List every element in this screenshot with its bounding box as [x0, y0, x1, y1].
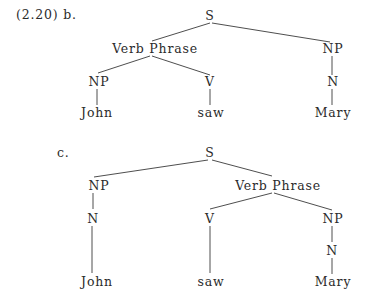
tree-c-leaf-mary: Mary	[315, 274, 352, 289]
tree-c-node-n-left: N	[87, 211, 99, 226]
tree-b-leaf-saw: saw	[198, 105, 225, 120]
edge	[94, 160, 208, 177]
tree-c-node-np-right: NP	[323, 211, 344, 226]
edge	[210, 193, 272, 209]
tree-b-node-verb-phrase: Verb Phrase	[111, 41, 198, 56]
tree-c-node-verb-phrase: Verb Phrase	[234, 178, 321, 193]
edge	[212, 160, 272, 176]
tree-c-leaf-saw: saw	[198, 274, 225, 289]
edge	[152, 23, 210, 41]
tree-c-leaf-john: John	[79, 274, 113, 289]
tree-c: c. S NP Verb Phrase N V NP N John saw Ma…	[57, 145, 351, 289]
tree-c-node-v: V	[204, 211, 215, 226]
tree-b-node-n-right: N	[327, 74, 339, 89]
edge	[152, 56, 210, 75]
syntax-tree-figure: (2.20) b. S Verb Phrase NP NP V N John s…	[0, 0, 366, 296]
tree-b: (2.20) b. S Verb Phrase NP NP V N John s…	[16, 7, 351, 120]
tree-b-leaf-mary: Mary	[315, 105, 352, 120]
edge	[274, 193, 332, 210]
tree-b-leaf-john: John	[79, 105, 113, 120]
tree-c-node-np-left: NP	[89, 178, 110, 193]
example-c-label: c.	[57, 145, 70, 160]
tree-c-node-n-right: N	[326, 243, 338, 258]
edge	[98, 56, 150, 73]
tree-b-node-np-left: NP	[89, 74, 110, 89]
tree-b-node-v: V	[204, 74, 215, 89]
tree-b-node-s: S	[205, 8, 214, 23]
tree-c-node-s: S	[205, 145, 214, 160]
example-number: (2.20) b.	[16, 7, 77, 22]
edge	[212, 23, 330, 42]
tree-b-node-np-right: NP	[323, 41, 344, 56]
